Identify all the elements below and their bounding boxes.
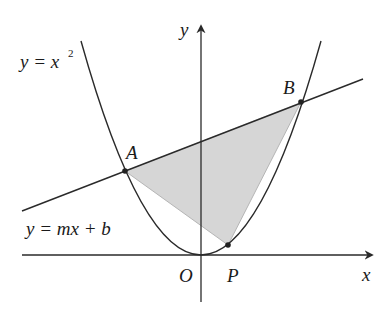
y-axis-label: y <box>178 19 189 40</box>
point-a-dot <box>122 168 128 174</box>
x-axis-label: x <box>361 264 371 285</box>
point-a-label: A <box>124 142 138 163</box>
parabola-equation-exponent: 2 <box>68 47 74 59</box>
point-p-label: P <box>226 265 239 286</box>
point-b-label: B <box>283 77 295 98</box>
line-equation-label: y = mx + b <box>24 218 111 239</box>
origin-label: O <box>179 265 193 286</box>
diagram-figure: y x O A B P y = x 2 y = mx + b <box>0 0 381 311</box>
point-b-dot <box>298 99 304 105</box>
point-p-dot <box>225 242 231 248</box>
parabola-equation-label: y = x <box>18 51 60 72</box>
